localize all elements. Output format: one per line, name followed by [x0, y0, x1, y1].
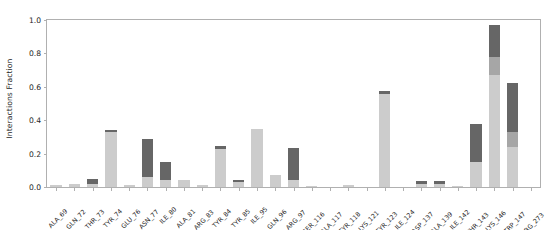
x-tick-mark [257, 187, 258, 191]
plot-area: 0.00.20.40.60.81.0 ALA_69GLN_72THR_73TYR… [46, 19, 541, 188]
y-axis-label: Interactions Fraction [0, 0, 20, 196]
bar-segment-light [270, 175, 281, 187]
bar-segment-light [178, 180, 189, 187]
y-tick-label: 0.6 [29, 82, 41, 91]
bar-segment-dark [288, 148, 299, 181]
x-tick-mark [458, 187, 459, 191]
x-tick-mark [93, 187, 94, 191]
bar [470, 124, 481, 187]
bar [160, 162, 171, 187]
bar-segment-light [160, 180, 171, 187]
bar-segment-light [288, 180, 299, 187]
x-tick-mark [294, 187, 295, 191]
bar [489, 25, 500, 187]
x-tick-mark [56, 187, 57, 191]
x-tick-mark [531, 187, 532, 191]
x-tick-mark [385, 187, 386, 191]
x-tick-mark [330, 187, 331, 191]
bar-segment-dark [507, 83, 518, 131]
bar-segment-medium [489, 57, 500, 75]
bar-segment-light [489, 75, 500, 187]
bar-segment-light [105, 132, 116, 187]
bar-segment-light [507, 147, 518, 187]
bar-segment-light [470, 162, 481, 187]
x-tick-mark [220, 187, 221, 191]
x-tick-mark [202, 187, 203, 191]
bar [507, 83, 518, 187]
x-tick-mark [476, 187, 477, 191]
bar [142, 139, 153, 187]
bar [178, 180, 189, 187]
bar-segment-dark [489, 25, 500, 57]
x-tick-mark [440, 187, 441, 191]
bar [251, 129, 262, 187]
x-tick-mark [513, 187, 514, 191]
bar-segment-light [251, 129, 262, 187]
x-tick-mark [494, 187, 495, 191]
bar-segment-light [215, 149, 226, 187]
bar-segment-light [379, 94, 390, 187]
x-tick-mark [239, 187, 240, 191]
bar [87, 179, 98, 187]
x-tick-mark [403, 187, 404, 191]
interactions-fraction-bar-chart: Interactions Fraction 0.00.20.40.60.81.0… [0, 0, 547, 230]
bar [288, 148, 299, 187]
bar [105, 130, 116, 187]
bar [379, 91, 390, 187]
x-tick-mark [74, 187, 75, 191]
x-tick-mark [421, 187, 422, 191]
y-tick-label: 0.2 [29, 149, 41, 158]
x-tick-mark [147, 187, 148, 191]
x-tick-mark [275, 187, 276, 191]
bar-segment-dark [142, 139, 153, 177]
bar-segment-dark [470, 124, 481, 162]
y-tick-label: 0.0 [29, 183, 41, 192]
bar-segment-dark [160, 162, 171, 180]
y-axis-label-text: Interactions Fraction [6, 58, 15, 138]
bar [233, 180, 244, 187]
x-tick-mark [348, 187, 349, 191]
bars-container [47, 20, 540, 187]
x-tick-mark [367, 187, 368, 191]
x-tick-mark [166, 187, 167, 191]
bar-segment-medium [507, 132, 518, 147]
x-tick-mark [129, 187, 130, 191]
y-tick-label: 0.8 [29, 49, 41, 58]
bar [215, 146, 226, 187]
y-tick-label: 1.0 [29, 16, 41, 25]
x-tick-mark [111, 187, 112, 191]
x-tick-mark [312, 187, 313, 191]
bar [270, 175, 281, 187]
y-tick-label: 0.4 [29, 116, 41, 125]
y-tick-mark [44, 187, 48, 188]
bar-segment-light [142, 177, 153, 187]
x-tick-mark [184, 187, 185, 191]
